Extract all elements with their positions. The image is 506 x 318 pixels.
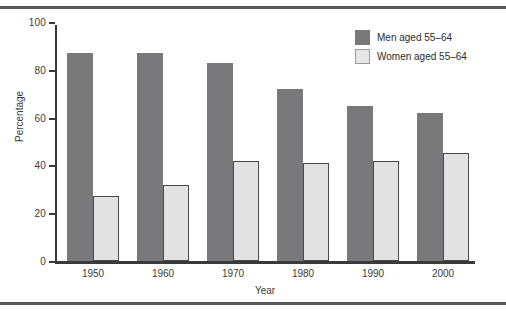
- x-tick-label: 1980: [292, 268, 314, 279]
- y-tick-mark: [49, 261, 55, 263]
- x-tick-label: 1950: [82, 268, 104, 279]
- women-swatch-icon: [355, 49, 370, 64]
- bar-group: [207, 22, 259, 261]
- legend-label-men: Men aged 55–64: [377, 32, 452, 43]
- chart-legend: Men aged 55–64 Women aged 55–64: [355, 28, 467, 66]
- y-axis-title: Percentage: [14, 91, 25, 142]
- x-tick-label: 1970: [222, 268, 244, 279]
- bar-women: [303, 163, 329, 261]
- bar-men: [137, 53, 163, 261]
- y-tick-label: 80: [34, 64, 46, 75]
- y-tick-label: 100: [29, 17, 46, 28]
- bar-men: [67, 53, 93, 261]
- legend-label-women: Women aged 55–64: [377, 51, 467, 62]
- bar-women: [443, 153, 469, 261]
- x-axis-line: [55, 261, 475, 264]
- y-tick-label: 0: [40, 256, 46, 267]
- top-divider-rule: [0, 6, 506, 9]
- bar-men: [207, 63, 233, 261]
- bar-women: [373, 161, 399, 261]
- y-tick-label: 60: [34, 112, 46, 123]
- legend-item-women: Women aged 55–64: [355, 47, 467, 66]
- legend-item-men: Men aged 55–64: [355, 28, 467, 47]
- bar-women: [163, 185, 189, 261]
- men-swatch-icon: [355, 30, 370, 45]
- x-tick-label: 2000: [432, 268, 454, 279]
- bar-men: [417, 113, 443, 261]
- x-tick-label: 1990: [362, 268, 384, 279]
- bar-group: [67, 22, 119, 261]
- bar-men: [277, 89, 303, 261]
- x-axis-title: Year: [55, 285, 475, 296]
- bar-men: [347, 106, 373, 261]
- bar-group: [137, 22, 189, 261]
- bar-women: [233, 161, 259, 261]
- y-tick-label: 40: [34, 160, 46, 171]
- bar-women: [93, 196, 119, 261]
- chart-figure: 020406080100 195019601970198019902000 Pe…: [0, 0, 506, 318]
- x-tick-label: 1960: [152, 268, 174, 279]
- y-tick-label: 20: [34, 208, 46, 219]
- bottom-divider-rule: [0, 302, 506, 305]
- bar-group: [277, 22, 329, 261]
